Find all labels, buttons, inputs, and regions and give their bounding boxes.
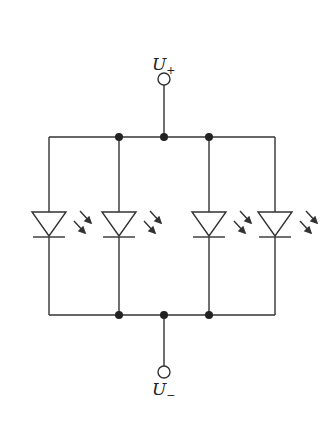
led-2 (102, 137, 161, 315)
led-4 (258, 137, 317, 315)
junction-dot (205, 311, 213, 319)
junction-dot (205, 133, 213, 141)
terminal-subscript: + (166, 64, 175, 77)
junction-dot (115, 133, 123, 141)
terminal-symbol: U (152, 379, 166, 399)
led-3 (192, 137, 251, 315)
terminal-symbol: U (152, 54, 166, 74)
terminal-subscript: − (166, 389, 175, 402)
junction-dot (115, 311, 123, 319)
junction-dot (160, 311, 168, 319)
junction-dot (160, 133, 168, 141)
negative-terminal-label: U− (152, 381, 176, 401)
led-1 (32, 137, 91, 315)
positive-terminal-label: U+ (152, 56, 176, 76)
negative-terminal-icon (158, 366, 170, 378)
